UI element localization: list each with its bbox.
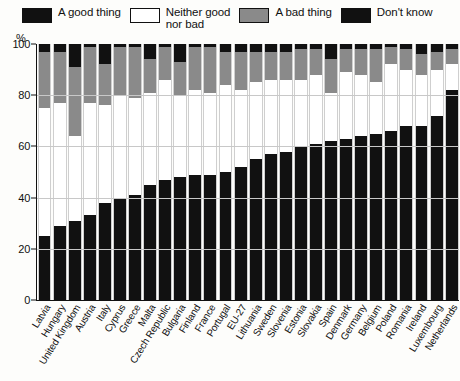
x-axis-label-slot: Bulgaria	[172, 301, 187, 381]
x-axis-label-slot: Cyprus	[111, 301, 126, 381]
bar-segment	[340, 49, 352, 72]
bar-segment	[310, 144, 322, 300]
x-axis-tick-mark	[405, 298, 406, 301]
bar-finland[interactable]	[188, 44, 202, 300]
bar-greece[interactable]	[128, 44, 142, 300]
bar-luxembourg[interactable]	[430, 44, 444, 300]
bar-segment	[235, 90, 247, 167]
x-axis-label-slot: Netherlands	[443, 301, 458, 381]
bar-spain[interactable]	[324, 44, 338, 300]
bar-eu-27[interactable]	[234, 44, 248, 300]
bar-segment	[280, 80, 292, 152]
x-axis-tick-mark	[119, 298, 120, 301]
bar-segment	[295, 146, 307, 300]
bar-belgium[interactable]	[369, 44, 383, 300]
legend-item: Don't know	[341, 7, 433, 23]
bar-segment	[250, 44, 262, 52]
y-axis-tick-label: 20	[18, 243, 30, 255]
bar-segment	[446, 64, 458, 90]
legend-label: A bad thing	[275, 7, 331, 19]
bar-segment	[144, 59, 156, 92]
bar-segment	[39, 44, 51, 52]
bar-france[interactable]	[203, 44, 217, 300]
x-axis-label-slot: Czech Republic	[157, 301, 172, 381]
x-axis-tick-mark	[224, 298, 225, 301]
x-axis-tick-mark	[390, 298, 391, 301]
bar-poland[interactable]	[384, 44, 398, 300]
bar-segment	[54, 103, 66, 226]
bar-segment	[280, 52, 292, 80]
bar-segment	[385, 64, 397, 131]
bar-segment	[325, 93, 337, 142]
bar-segment	[189, 47, 201, 91]
y-axis-tick-label: 40	[18, 192, 30, 204]
bar-segment	[204, 47, 216, 93]
bar-germany[interactable]	[354, 44, 368, 300]
bar-united-kingdom[interactable]	[68, 44, 82, 300]
bar-segment	[189, 175, 201, 300]
legend-swatch-good	[22, 8, 52, 23]
bar-sweden[interactable]	[264, 44, 278, 300]
bar-malta[interactable]	[143, 44, 157, 300]
bar-austria[interactable]	[83, 44, 97, 300]
bar-bulgaria[interactable]	[173, 44, 187, 300]
bar-segment	[250, 159, 262, 300]
x-axis-tick-mark	[194, 298, 195, 301]
bar-segment	[99, 44, 111, 64]
x-axis-label-slot: Belgium	[368, 301, 383, 381]
bar-estonia[interactable]	[294, 44, 308, 300]
bar-segment	[431, 116, 443, 300]
x-axis-label-slot: Austria	[81, 301, 96, 381]
x-axis-label-slot: United Kingdom	[66, 301, 81, 381]
x-axis-tick-mark	[270, 298, 271, 301]
bar-latvia[interactable]	[38, 44, 52, 300]
bar-slovenia[interactable]	[279, 44, 293, 300]
x-axis-tick-mark	[179, 298, 180, 301]
bar-segment	[416, 44, 428, 54]
bar-romania[interactable]	[399, 44, 413, 300]
bar-segment	[69, 44, 81, 67]
bar-denmark[interactable]	[339, 44, 353, 300]
bar-segment	[265, 80, 277, 154]
bar-segment	[99, 105, 111, 202]
x-axis-tick-mark	[59, 298, 60, 301]
bar-netherlands[interactable]	[445, 44, 459, 300]
bar-segment	[340, 72, 352, 139]
legend-label: Neither good nor bad	[166, 7, 231, 30]
bar-ireland[interactable]	[415, 44, 429, 300]
bar-segment	[69, 136, 81, 220]
x-axis-tick-mark	[330, 298, 331, 301]
bar-italy[interactable]	[98, 44, 112, 300]
bar-lithuania[interactable]	[249, 44, 263, 300]
bar-hungary[interactable]	[53, 44, 67, 300]
bar-segment	[114, 198, 126, 300]
legend-label: A good thing	[58, 7, 121, 19]
bar-segment	[114, 47, 126, 96]
x-axis-label-slot: Poland	[383, 301, 398, 381]
x-axis-label-slot: Slovenia	[277, 301, 292, 381]
bar-segment	[370, 49, 382, 82]
x-axis-tick-mark	[44, 298, 45, 301]
bar-slovakia[interactable]	[309, 44, 323, 300]
bar-czech-republic[interactable]	[158, 44, 172, 300]
x-axis-tick-mark	[255, 298, 256, 301]
bar-segment	[114, 95, 126, 197]
bar-portugal[interactable]	[219, 44, 233, 300]
legend-swatch-bad	[239, 8, 269, 23]
legend-item: A bad thing	[239, 7, 331, 23]
bar-cyprus[interactable]	[113, 44, 127, 300]
bar-segment	[159, 47, 171, 80]
bar-segment	[204, 175, 216, 300]
bar-segment	[39, 52, 51, 108]
bar-segment	[54, 52, 66, 103]
x-axis-tick-mark	[89, 298, 90, 301]
x-axis-tick-mark	[375, 298, 376, 301]
bar-segment	[189, 90, 201, 174]
bar-segment	[280, 44, 292, 52]
y-axis: 100806040200	[0, 30, 34, 315]
bar-segment	[416, 75, 428, 126]
bar-segment	[84, 103, 96, 216]
bar-segment	[325, 44, 337, 59]
bar-segment	[416, 54, 428, 74]
chart-legend: A good thingNeither good nor badA bad th…	[22, 7, 460, 35]
